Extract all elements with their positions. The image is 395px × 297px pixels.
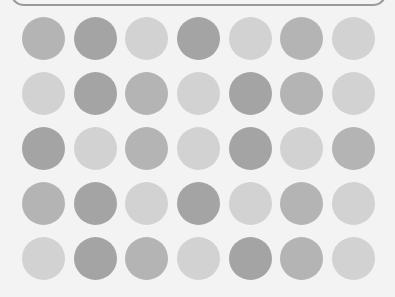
dot-r2-c6[interactable] [280, 72, 323, 115]
dot-r3-c3[interactable] [125, 127, 168, 170]
dot-r5-c4[interactable] [177, 237, 220, 280]
dot-r1-c5[interactable] [229, 17, 272, 60]
dot-r3-c6[interactable] [280, 127, 323, 170]
dot-r2-c5[interactable] [229, 72, 272, 115]
dot-r2-c1[interactable] [22, 72, 65, 115]
dot-r2-c3[interactable] [125, 72, 168, 115]
dot-r4-c7[interactable] [332, 182, 375, 225]
dot-r4-c2[interactable] [74, 182, 117, 225]
dot-r4-c1[interactable] [22, 182, 65, 225]
dot-r1-c3[interactable] [125, 17, 168, 60]
dot-r4-c4[interactable] [177, 182, 220, 225]
dot-r1-c6[interactable] [280, 17, 323, 60]
dot-r1-c1[interactable] [22, 17, 65, 60]
dot-r3-c7[interactable] [332, 127, 375, 170]
dot-r1-c4[interactable] [177, 17, 220, 60]
dot-r4-c6[interactable] [280, 182, 323, 225]
dot-r5-c5[interactable] [229, 237, 272, 280]
dot-r1-c7[interactable] [332, 17, 375, 60]
dot-r5-c6[interactable] [280, 237, 323, 280]
dot-r3-c1[interactable] [22, 127, 65, 170]
dot-r4-c5[interactable] [229, 182, 272, 225]
dot-r5-c7[interactable] [332, 237, 375, 280]
dot-r2-c4[interactable] [177, 72, 220, 115]
dot-r4-c3[interactable] [125, 182, 168, 225]
dot-r2-c2[interactable] [74, 72, 117, 115]
dot-r5-c3[interactable] [125, 237, 168, 280]
dot-r3-c5[interactable] [229, 127, 272, 170]
dot-grid [0, 0, 395, 297]
dot-r1-c2[interactable] [74, 17, 117, 60]
dot-r3-c4[interactable] [177, 127, 220, 170]
dot-r5-c1[interactable] [22, 237, 65, 280]
dot-r3-c2[interactable] [74, 127, 117, 170]
dot-r2-c7[interactable] [332, 72, 375, 115]
dot-r5-c2[interactable] [74, 237, 117, 280]
